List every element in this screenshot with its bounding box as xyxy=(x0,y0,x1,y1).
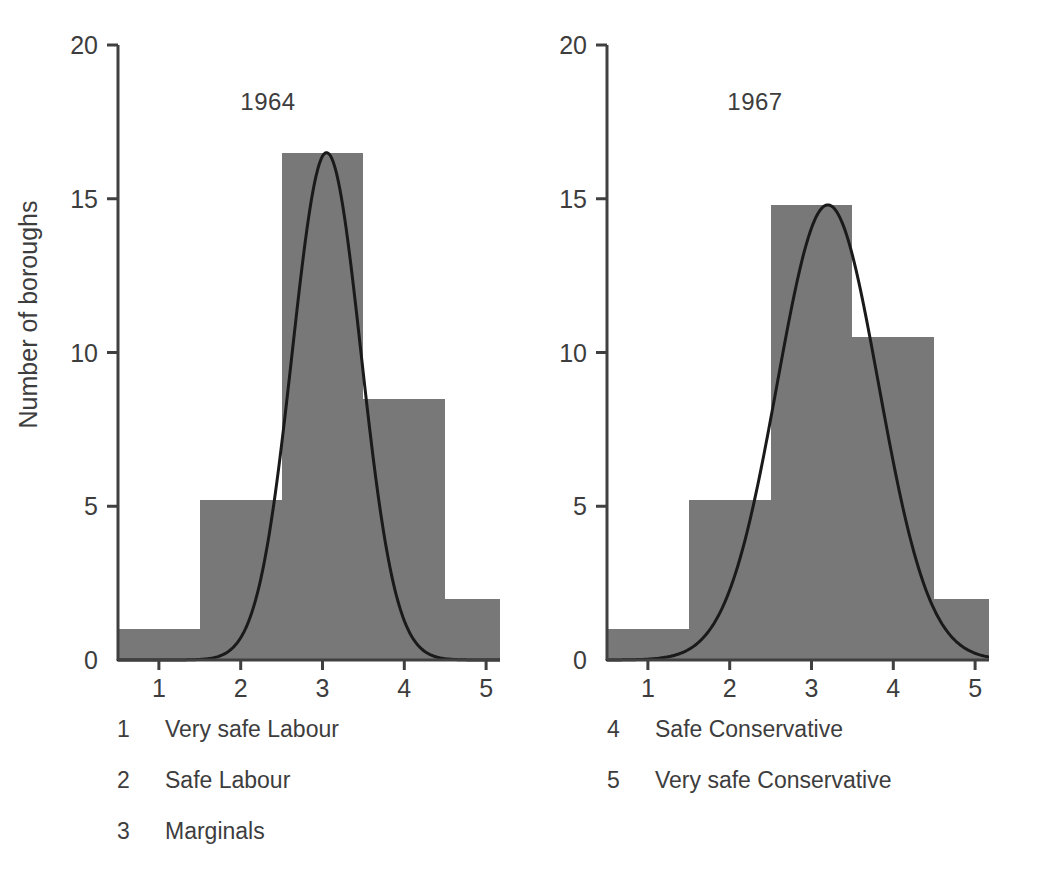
legend-item-2: 2 Safe Labour xyxy=(117,767,339,818)
legend-key-2: 2 xyxy=(117,767,165,794)
y-axis-tick-label: 10 xyxy=(70,339,98,367)
panels-container: 1964 Number of boroughs 0510152012345 19… xyxy=(0,0,1050,710)
y-axis-tick-label: 15 xyxy=(559,185,587,213)
histogram-figure: 1964 Number of boroughs 0510152012345 19… xyxy=(0,0,1050,893)
legend-key-4: 4 xyxy=(607,716,655,743)
legend-key-1: 1 xyxy=(117,716,165,743)
plot-area-1967: 0510152012345 xyxy=(489,0,989,710)
legend-item-4: 4 Safe Conservative xyxy=(607,716,892,767)
y-axis-tick-label: 20 xyxy=(559,31,587,59)
x-axis-tick-label: 2 xyxy=(234,674,248,702)
legend-column-right: 4 Safe Conservative 5 Very safe Conserva… xyxy=(607,716,892,818)
y-axis-tick-label: 20 xyxy=(70,31,98,59)
y-axis-tick-label: 0 xyxy=(84,646,98,674)
legend-key-5: 5 xyxy=(607,767,655,794)
legend-column-left: 1 Very safe Labour 2 Safe Labour 3 Margi… xyxy=(117,716,339,869)
legend-key-3: 3 xyxy=(117,818,165,845)
legend-item-3: 3 Marginals xyxy=(117,818,339,869)
y-axis-tick-label: 5 xyxy=(573,492,587,520)
histogram-bar xyxy=(689,500,771,660)
histogram-bar xyxy=(934,599,989,661)
legend-label-4: Safe Conservative xyxy=(655,716,843,743)
chart-panel-1967: 1967 0510152012345 xyxy=(489,0,989,710)
x-axis-tick-label: 1 xyxy=(641,674,655,702)
x-axis-tick-label: 3 xyxy=(316,674,330,702)
histogram-bar xyxy=(852,337,934,660)
x-axis-tick-label: 2 xyxy=(723,674,737,702)
legend-label-1: Very safe Labour xyxy=(165,716,339,743)
y-axis-tick-label: 0 xyxy=(573,646,587,674)
chart-panel-1964: 1964 Number of boroughs 0510152012345 xyxy=(0,0,500,710)
x-axis-tick-label: 1 xyxy=(152,674,166,702)
x-axis-tick-label: 3 xyxy=(805,674,819,702)
y-axis-tick-label: 10 xyxy=(559,339,587,367)
histogram-bar xyxy=(118,629,200,660)
legend-item-5: 5 Very safe Conservative xyxy=(607,767,892,818)
legend-label-3: Marginals xyxy=(165,818,265,845)
plot-area-1964: 0510152012345 xyxy=(0,0,500,710)
category-legend: 1 Very safe Labour 2 Safe Labour 3 Margi… xyxy=(0,716,1050,893)
y-axis-tick-label: 15 xyxy=(70,185,98,213)
legend-label-2: Safe Labour xyxy=(165,767,290,794)
x-axis-tick-label: 5 xyxy=(968,674,982,702)
x-axis-tick-label: 4 xyxy=(886,674,900,702)
legend-label-5: Very safe Conservative xyxy=(655,767,892,794)
legend-item-1: 1 Very safe Labour xyxy=(117,716,339,767)
histogram-bar xyxy=(282,153,364,660)
y-axis-tick-label: 5 xyxy=(84,492,98,520)
x-axis-tick-label: 4 xyxy=(397,674,411,702)
histogram-bar xyxy=(771,205,853,660)
